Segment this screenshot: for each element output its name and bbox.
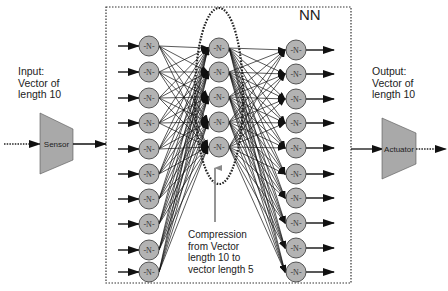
neuron-label: -N-	[143, 68, 154, 77]
neuron-input-layer: -N-	[139, 189, 159, 209]
neuron-label: -N-	[290, 119, 301, 128]
sensor-label: Sensor	[44, 140, 70, 149]
neuron-hidden-layer: -N-	[209, 38, 229, 58]
neuron-hidden-layer: -N-	[209, 137, 229, 157]
nn-title: NN	[299, 6, 321, 23]
neuron-hidden-layer: -N-	[209, 62, 229, 82]
output-arrows	[306, 50, 334, 272]
neuron-output-layer: -N-	[286, 138, 306, 158]
neuron-hidden-layer: -N-	[209, 112, 229, 132]
neuron-label: -N-	[290, 95, 301, 104]
actuator-block: Actuator	[351, 118, 446, 179]
neuron-label: -N-	[143, 246, 154, 255]
connection	[229, 48, 285, 50]
neuron-input-layer: -N-	[139, 262, 159, 282]
input-label: Input: Vector of length 10	[18, 66, 61, 101]
neuron-input-layer: -N-	[139, 113, 159, 133]
input-arrows	[118, 46, 139, 272]
neuron-input-layer: -N-	[139, 214, 159, 234]
neuron-output-layer: -N-	[286, 113, 306, 133]
actuator-label: Actuator	[384, 145, 414, 154]
neuron-label: -N-	[143, 195, 154, 204]
connection	[229, 123, 285, 147]
neuron-label: -N-	[143, 268, 154, 277]
neuron-label: -N-	[143, 119, 154, 128]
neuron-label: -N-	[290, 268, 301, 277]
neuron-label: -N-	[290, 70, 301, 79]
neuron-input-layer: -N-	[139, 62, 159, 82]
neuron-output-layer: -N-	[286, 238, 306, 258]
neuron-hidden-layer: -N-	[209, 87, 229, 107]
neuron-label: -N-	[143, 42, 154, 51]
neuron-input-layer: -N-	[139, 139, 159, 159]
neuron-input-layer: -N-	[139, 240, 159, 260]
neuron-output-layer: -N-	[286, 188, 306, 208]
neuron-output-layer: -N-	[286, 64, 306, 84]
neuron-label: -N-	[290, 144, 301, 153]
output-label: Output: Vector of length 10	[372, 66, 415, 101]
neuron-label: -N-	[213, 143, 224, 152]
neuron-label: -N-	[290, 194, 301, 203]
neuron-input-layer: -N-	[139, 36, 159, 56]
compression-label: Compression from Vector length 10 to vec…	[188, 229, 254, 275]
neuron-label: -N-	[213, 93, 224, 102]
neuron-label: -N-	[213, 44, 224, 53]
neuron-label: -N-	[290, 170, 301, 179]
neuron-output-layer: -N-	[286, 164, 306, 184]
neuron-label: -N-	[143, 220, 154, 229]
neuron-label: -N-	[213, 118, 224, 127]
neuron-label: -N-	[290, 46, 301, 55]
connection	[159, 46, 208, 48]
neuron-label: -N-	[143, 170, 154, 179]
neuron-output-layer: -N-	[286, 89, 306, 109]
connection	[159, 97, 208, 250]
neuron-input-layer: -N-	[139, 164, 159, 184]
neuron-label: -N-	[290, 244, 301, 253]
neuron-label: -N-	[143, 145, 154, 154]
neuron-label: -N-	[290, 219, 301, 228]
neuron-label: -N-	[213, 68, 224, 77]
sensor-block: Sensor	[4, 113, 106, 174]
neuron-output-layer: -N-	[286, 40, 306, 60]
neuron-label: -N-	[143, 94, 154, 103]
neuron-output-layer: -N-	[286, 213, 306, 233]
neuron-output-layer: -N-	[286, 262, 306, 282]
neuron-input-layer: -N-	[139, 88, 159, 108]
